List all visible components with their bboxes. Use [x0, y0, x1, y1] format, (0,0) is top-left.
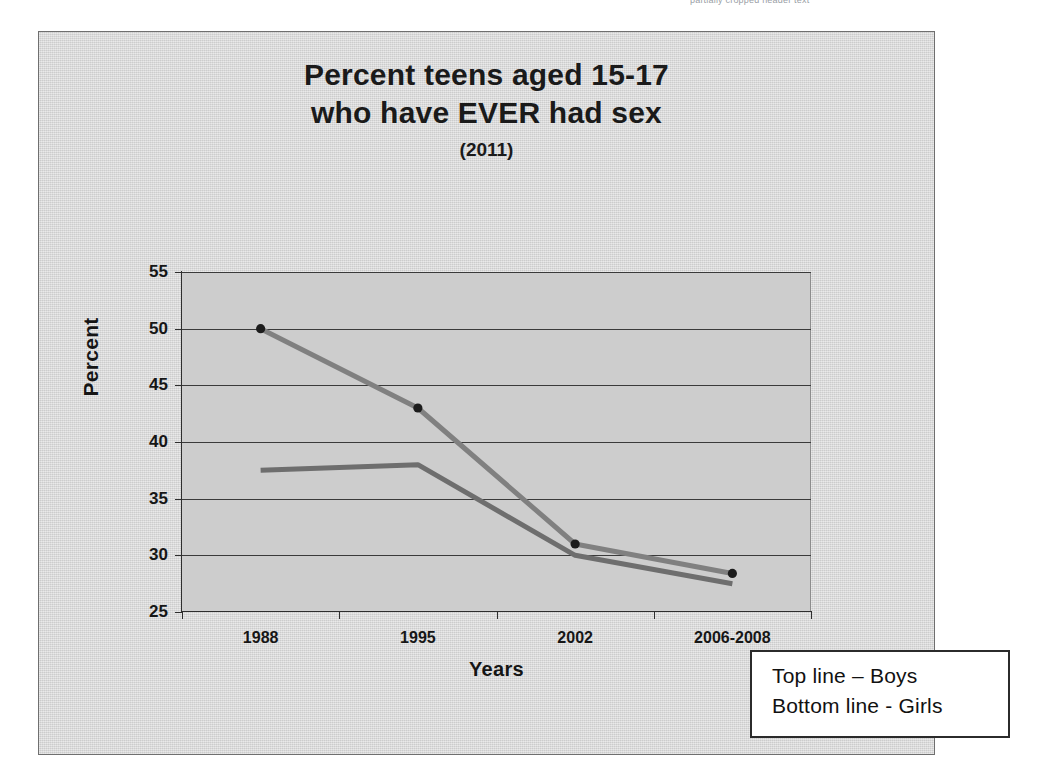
y-axis-tick-label: 45 — [124, 375, 168, 395]
y-axis-tick-label: 25 — [124, 602, 168, 622]
series-plot — [182, 272, 811, 612]
x-axis-tick — [339, 612, 340, 619]
x-axis-tick-label: 1995 — [338, 629, 498, 647]
y-axis-tick-label: 40 — [124, 432, 168, 452]
y-axis-tick-label: 55 — [124, 262, 168, 282]
x-axis-tick — [497, 612, 498, 619]
x-axis-tick-label: 1988 — [181, 629, 341, 647]
y-axis-tick-label: 35 — [124, 489, 168, 509]
x-axis-tick — [811, 612, 812, 619]
boys-line — [261, 329, 733, 574]
chart-title-line-2: who have EVER had sex — [39, 94, 934, 132]
legend-box: Top line – Boys Bottom line - Girls — [750, 650, 1010, 738]
y-axis-tick — [175, 499, 182, 500]
chart-frame: Percent teens aged 15-17 who have EVER h… — [38, 31, 935, 755]
y-axis-tick-label: 50 — [124, 319, 168, 339]
data-point-marker — [728, 569, 737, 578]
plot-area: 25303540455055 1988199520022006-2008 — [182, 272, 811, 612]
x-axis-tick — [182, 612, 183, 619]
scan-header-sliver-text: partially cropped header text — [690, 0, 880, 5]
y-axis-tick — [175, 555, 182, 556]
data-point-marker — [256, 324, 265, 333]
data-point-marker — [413, 403, 422, 412]
chart-title-line-1: Percent teens aged 15-17 — [39, 56, 934, 94]
x-axis-tick-label: 2006-2008 — [652, 629, 812, 647]
chart-title-block: Percent teens aged 15-17 who have EVER h… — [39, 56, 934, 165]
chart-subtitle: (2011) — [39, 135, 934, 165]
scan-header-sliver: partially cropped header text — [690, 0, 880, 7]
y-axis-title: Percent — [79, 267, 109, 447]
y-axis-tick — [175, 442, 182, 443]
y-axis-tick — [175, 385, 182, 386]
y-axis-tick — [175, 272, 182, 273]
girls-line — [261, 465, 733, 584]
data-point-marker — [571, 539, 580, 548]
y-axis-tick-label: 30 — [124, 545, 168, 565]
x-axis-tick-label: 2002 — [495, 629, 655, 647]
x-axis-title: Years — [182, 658, 811, 681]
y-axis-tick — [175, 612, 182, 613]
legend-line-boys: Top line – Boys — [772, 661, 1008, 691]
legend-line-girls: Bottom line - Girls — [772, 691, 1008, 721]
y-axis-tick — [175, 329, 182, 330]
x-axis-tick — [654, 612, 655, 619]
